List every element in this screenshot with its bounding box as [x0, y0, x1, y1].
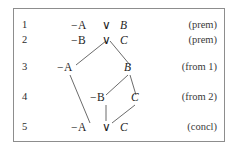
proof-row-2: 2 −B ∨ C (prem) [14, 32, 226, 48]
justification-line4: (from 2) [182, 89, 217, 105]
line-number-5: 5 [22, 119, 36, 135]
literal-b-line1: B [120, 17, 127, 33]
literal-neg-a-line5: −A [71, 119, 87, 135]
literal-neg-a-line1: −A [71, 17, 87, 33]
neg-a-text-5: −A [71, 121, 87, 133]
disjunction-icon-line5: ∨ [102, 119, 111, 135]
disjunction-icon-line1: ∨ [102, 17, 111, 33]
literal-b-line3: B [124, 59, 131, 75]
figure-container: 1 −A ∨ B (prem) 2 −B ∨ C (prem) 3 −A B (… [0, 0, 238, 150]
line-number-3: 3 [22, 59, 36, 75]
literal-neg-b-line2: −B [71, 32, 86, 48]
neg-b-text-4: −B [90, 91, 105, 103]
proof-row-1: 1 −A ∨ B (prem) [14, 17, 226, 33]
line-number-1: 1 [22, 17, 36, 33]
literal-c-line4: C [131, 89, 139, 105]
neg-b-text: −B [71, 34, 86, 46]
literal-neg-a-line3: −A [57, 59, 73, 75]
proof-row-4: 4 −B C (from 2) [14, 89, 226, 105]
literal-c-line5: C [120, 119, 128, 135]
line-number-2: 2 [22, 32, 36, 48]
literal-c-line2: C [120, 32, 128, 48]
neg-a-text: −A [71, 19, 87, 31]
line-number-4: 4 [22, 89, 36, 105]
proof-row-3: 3 −A B (from 1) [14, 59, 226, 75]
proof-row-5: 5 −A ∨ C (concl) [14, 119, 226, 135]
neg-a-text-3: −A [57, 61, 73, 73]
disjunction-icon-line2: ∨ [102, 32, 111, 48]
justification-line1: (prem) [188, 17, 217, 33]
literal-neg-b-line4: −B [90, 89, 105, 105]
justification-line3: (from 1) [182, 59, 217, 75]
figure-frame: 1 −A ∨ B (prem) 2 −B ∨ C (prem) 3 −A B (… [13, 8, 225, 142]
justification-line5: (concl) [187, 119, 217, 135]
justification-line2: (prem) [188, 32, 217, 48]
